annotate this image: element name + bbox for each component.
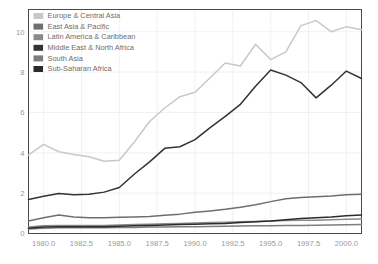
legend-label-sub-saharan-africa: Sub-Saharan Africa bbox=[48, 64, 113, 73]
legend-swatch-middle-east-north-africa bbox=[34, 45, 44, 51]
y-tick-label: 6 bbox=[20, 108, 24, 117]
x-tick-label: 1995.0 bbox=[259, 239, 282, 248]
legend-label-latin-america-caribbean: Latin America & Caribbean bbox=[48, 32, 136, 41]
legend-label-middle-east-north-africa: Middle East & North Africa bbox=[48, 43, 135, 52]
legend-label-east-asia-pacific: East Asia & Pacific bbox=[48, 22, 110, 31]
x-tick-label: 1992.5 bbox=[221, 239, 244, 248]
y-tick-label: 8 bbox=[20, 68, 24, 77]
legend-swatch-sub-saharan-africa bbox=[34, 66, 44, 72]
chart-figure: 1980.01982.51985.01987.51990.01992.51995… bbox=[0, 0, 378, 264]
legend-swatch-south-asia bbox=[34, 55, 44, 61]
x-tick-label: 1990.0 bbox=[183, 239, 206, 248]
y-tick-label: 2 bbox=[20, 189, 24, 198]
legend-swatch-europe-central-asia bbox=[34, 13, 44, 19]
x-tick-label: 1997.5 bbox=[297, 239, 320, 248]
x-axis-tick-labels: 1980.01982.51985.01987.51990.01992.51995… bbox=[32, 239, 358, 248]
legend-label-south-asia: South Asia bbox=[48, 54, 84, 63]
x-tick-label: 1980.0 bbox=[32, 239, 55, 248]
y-tick-label: 10 bbox=[16, 28, 24, 37]
legend-label-europe-central-asia: Europe & Central Asia bbox=[48, 11, 122, 20]
y-tick-label: 0 bbox=[20, 229, 24, 238]
legend-swatch-latin-america-caribbean bbox=[34, 34, 44, 40]
x-tick-label: 2000.0 bbox=[335, 239, 358, 248]
x-tick-label: 1982.5 bbox=[70, 239, 93, 248]
chart-legend: Europe & Central AsiaEast Asia & Pacific… bbox=[34, 11, 136, 73]
line-chart: 1980.01982.51985.01987.51990.01992.51995… bbox=[0, 0, 378, 264]
y-tick-label: 4 bbox=[20, 149, 24, 158]
x-tick-label: 1985.0 bbox=[108, 239, 131, 248]
y-axis-tick-labels: 0246810 bbox=[16, 28, 24, 239]
x-tick-label: 1987.5 bbox=[146, 239, 169, 248]
legend-swatch-east-asia-pacific bbox=[34, 24, 44, 30]
